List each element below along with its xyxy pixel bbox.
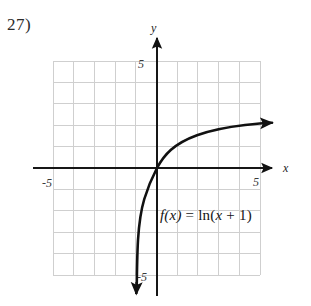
y-axis-label: y: [150, 21, 157, 35]
equation-ln: ln: [198, 207, 210, 223]
x-tick-label-negative-5: -5: [42, 176, 52, 190]
y-tick-label-positive-5: 5: [138, 57, 144, 71]
function-equation-label: f(x) = ln(x + 1): [160, 207, 252, 224]
equation-fx: f(x): [160, 207, 182, 223]
graph-figure: 27): [0, 0, 311, 306]
coordinate-plane-graph: x y 5 -5 -5 5: [0, 0, 311, 306]
x-axis-label: x: [282, 161, 289, 175]
equation-close-paren: ): [247, 207, 252, 223]
equation-equals: =: [186, 207, 195, 223]
axis-lines: [33, 38, 272, 296]
equation-constant-one: 1: [239, 207, 247, 223]
y-tick-label-negative-5: -5: [137, 270, 147, 284]
equation-argument-x: x: [215, 207, 222, 223]
equation-plus: +: [226, 207, 235, 223]
x-tick-label-positive-5: 5: [253, 175, 259, 189]
